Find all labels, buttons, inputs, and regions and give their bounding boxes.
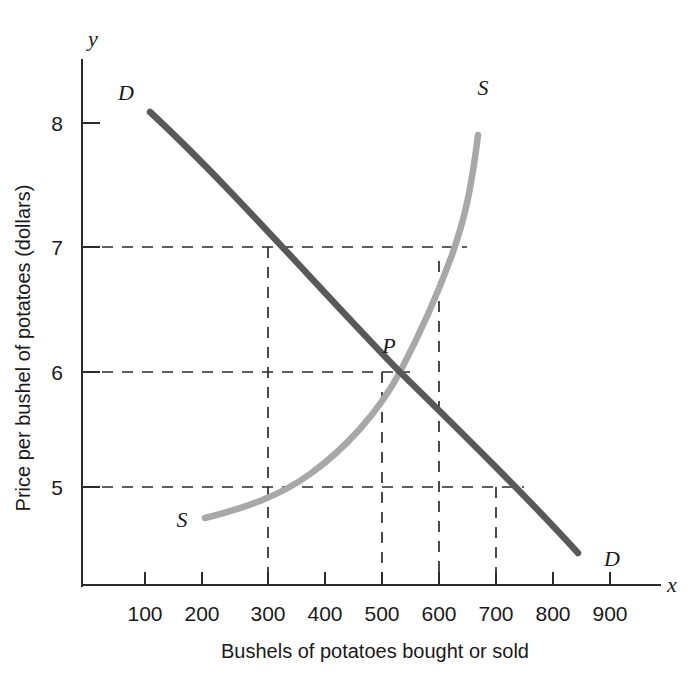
x-axis-name: x bbox=[666, 572, 677, 597]
x-tick-label-200: 200 bbox=[184, 602, 219, 625]
y-axis-ticks bbox=[82, 123, 100, 487]
reference-lines bbox=[82, 247, 524, 585]
y-axis-tick-labels: 8 7 6 5 bbox=[51, 112, 63, 499]
x-tick-label-500: 500 bbox=[364, 602, 399, 625]
x-tick-label-700: 700 bbox=[478, 602, 513, 625]
y-tick-label-5: 5 bbox=[51, 476, 63, 499]
x-axis-ticks bbox=[145, 572, 610, 585]
x-tick-label-900: 900 bbox=[592, 602, 627, 625]
demand-label-upper: D bbox=[117, 80, 134, 105]
y-tick-label-6: 6 bbox=[51, 361, 63, 384]
supply-curve bbox=[205, 135, 478, 518]
y-axis-title: Price per bushel of potatoes (dollars) bbox=[12, 185, 34, 512]
y-tick-label-7: 7 bbox=[51, 236, 63, 259]
chart-canvas: 8 7 6 5 100 200 300 400 500 600 700 800 … bbox=[0, 0, 695, 673]
axes bbox=[82, 60, 660, 586]
x-tick-label-800: 800 bbox=[535, 602, 570, 625]
supply-label-upper: S bbox=[478, 75, 489, 100]
x-tick-label-300: 300 bbox=[250, 602, 285, 625]
x-tick-label-600: 600 bbox=[421, 602, 456, 625]
x-tick-label-400: 400 bbox=[307, 602, 342, 625]
x-tick-label-100: 100 bbox=[127, 602, 162, 625]
demand-label-lower: D bbox=[603, 546, 620, 571]
y-axis-name: y bbox=[86, 26, 98, 51]
x-axis-title: Bushels of potatoes bought or sold bbox=[221, 640, 529, 662]
equilibrium-point-label: P bbox=[381, 333, 395, 358]
supply-demand-chart: 8 7 6 5 100 200 300 400 500 600 700 800 … bbox=[0, 0, 695, 673]
y-tick-label-8: 8 bbox=[51, 112, 63, 135]
supply-label-lower: S bbox=[177, 507, 188, 532]
x-axis-tick-labels: 100 200 300 400 500 600 700 800 900 bbox=[127, 602, 627, 625]
